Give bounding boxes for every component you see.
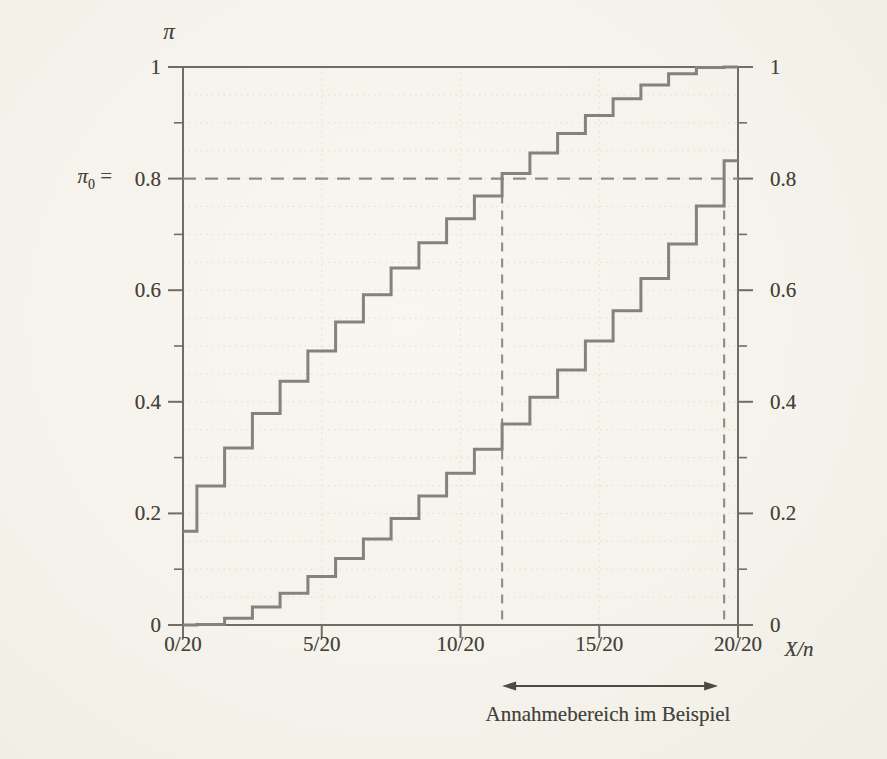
pi0-symbol: π (77, 164, 88, 188)
x-axis-title-text: X/n (784, 637, 813, 661)
x-axis-tick-label: 5/20 (303, 634, 340, 655)
figure-page: π π0 = X/n 10.80.60.40.20 10.80.60.40.20… (0, 0, 887, 759)
y-axis-right-tick-label: 1 (770, 57, 781, 78)
y-axis-left-tick-label: 0.8 (135, 168, 161, 189)
pi0-equals-sign: = (95, 164, 112, 188)
arrow-right-head (704, 681, 718, 690)
y-axis-right-tick-label: 0.6 (770, 280, 796, 301)
y-axis-right-tick-label: 0.4 (770, 391, 796, 412)
y-axis-left-tick-label: 1 (151, 57, 162, 78)
x-axis-title: X/n (784, 639, 813, 660)
y-axis-right-tick-label: 0 (770, 615, 781, 636)
x-axis-tick-label: 15/20 (575, 634, 623, 655)
y-axis-right-tick-label: 0.8 (770, 168, 796, 189)
y-axis-left-tick-label: 0.2 (135, 503, 161, 524)
x-axis-tick-label: 10/20 (437, 634, 485, 655)
pi0-equals-label: π0 = (77, 166, 112, 191)
pi-symbol: π (163, 19, 175, 44)
pi0-subscript: 0 (88, 177, 95, 192)
y-axis-left-tick-label: 0 (151, 615, 162, 636)
y-axis-title-pi: π (163, 20, 175, 43)
arrow-left-head (502, 681, 516, 690)
x-axis-tick-label: 20/20 (714, 634, 762, 655)
acceptance-region-label: Annahmebereich im Beispiel (486, 704, 731, 725)
y-axis-left-tick-label: 0.4 (135, 391, 161, 412)
y-axis-left-tick-label: 0.6 (135, 280, 161, 301)
y-axis-right-tick-label: 0.2 (770, 503, 796, 524)
x-axis-tick-label: 0/20 (164, 634, 201, 655)
